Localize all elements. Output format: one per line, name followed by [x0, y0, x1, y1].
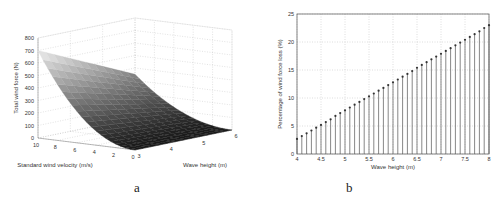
- stem-marker: [406, 73, 408, 75]
- stem-marker: [402, 76, 404, 78]
- x-tick-label: 2: [112, 152, 115, 158]
- stem-marker: [416, 67, 418, 69]
- y-tick-label: 20: [288, 39, 294, 45]
- stem-marker: [301, 135, 303, 137]
- stem-marker: [387, 84, 389, 86]
- stem-marker: [469, 36, 471, 38]
- stem-marker: [334, 115, 336, 117]
- stem-marker: [488, 24, 490, 26]
- x-tick-label: 6.5: [413, 156, 421, 162]
- stem-marker: [310, 129, 312, 131]
- z-tick-label: 300: [25, 98, 34, 104]
- x-tick-label: 6: [391, 156, 394, 162]
- stem-marker: [306, 132, 308, 134]
- stem-marker: [421, 64, 423, 66]
- y-axis-label: Wave height (m): [183, 162, 227, 168]
- y-tick-label: 4: [170, 146, 173, 152]
- x-tick-label: 8: [54, 144, 57, 150]
- stem-marker: [296, 138, 298, 140]
- stem-marker: [339, 112, 341, 114]
- y-tick-label: 10: [288, 95, 294, 101]
- grid-line-z: [135, 68, 232, 80]
- stem-marker: [411, 70, 413, 72]
- grid-line-z: [135, 43, 232, 55]
- stem-marker: [330, 118, 332, 120]
- stem-marker: [382, 87, 384, 89]
- stem-marker: [454, 44, 456, 46]
- x-tick-label: 0: [131, 154, 134, 160]
- stem-marker: [392, 81, 394, 83]
- stem-marker: [474, 33, 476, 35]
- x-tick-label: 4: [295, 156, 298, 162]
- y-tick-label: 25: [288, 11, 294, 17]
- x-tick-label: 5: [343, 156, 346, 162]
- y-axis-label: Percentage of wind force loss (%): [277, 39, 283, 129]
- z-tick-label: 600: [25, 60, 34, 66]
- stem-marker: [325, 121, 327, 123]
- x-tick-label: 4.5: [317, 156, 325, 162]
- z-tick-label: 400: [25, 85, 34, 91]
- z-tick-label: 700: [25, 48, 34, 54]
- stem-marker: [320, 124, 322, 126]
- stem-marker: [478, 30, 480, 32]
- box-top-edge: [135, 18, 232, 30]
- grid-line-z: [38, 31, 135, 51]
- x-axis-label: Standard wind velocity (m/s): [17, 162, 92, 168]
- y-tick-label: 15: [288, 67, 294, 73]
- z-tick-label: 500: [25, 73, 34, 79]
- y-tick-label: 3: [137, 153, 140, 159]
- stem-marker: [358, 101, 360, 103]
- caption-b: b: [346, 180, 353, 196]
- x-tick-label: 10: [33, 142, 39, 148]
- surface-plot-wind-force: 010020030040050060070080002468103456Stan…: [0, 0, 250, 203]
- stem-marker: [363, 98, 365, 100]
- stem-marker: [344, 109, 346, 111]
- stem-marker: [349, 106, 351, 108]
- stem-marker: [397, 78, 399, 80]
- x-tick-label: 6: [73, 147, 76, 153]
- y-tick-label: 0: [291, 151, 294, 157]
- x-axis-label: Wave height (m): [371, 164, 415, 170]
- z-tick-label: 800: [25, 35, 34, 41]
- z-tick-label: 0: [31, 135, 34, 141]
- stem-marker: [459, 41, 461, 43]
- y-tick-label: 6: [234, 133, 237, 139]
- x-tick-label: 7: [439, 156, 442, 162]
- stem-marker: [445, 50, 447, 52]
- z-tick-label: 100: [25, 123, 34, 129]
- x-tick-label: 7.5: [461, 156, 469, 162]
- stem-marker: [483, 27, 485, 29]
- z-axis-label: Total wind force (N): [13, 62, 19, 114]
- stem-marker: [373, 92, 375, 94]
- x-tick-label: 5.5: [365, 156, 373, 162]
- y-tick-label: 5: [202, 140, 205, 146]
- chart-b-panel: 44.555.566.577.580510152025Wave height (…: [250, 0, 501, 203]
- stem-marker: [435, 55, 437, 57]
- stem-marker: [440, 53, 442, 55]
- stem-marker: [450, 47, 452, 49]
- stem-marker: [315, 127, 317, 129]
- x-tick-label: 4: [93, 149, 96, 155]
- stem-marker: [426, 61, 428, 63]
- grid-line-z: [135, 56, 232, 68]
- caption-a: a: [134, 180, 140, 196]
- x-tick-label: 8: [487, 156, 490, 162]
- grid-line-z: [135, 31, 232, 43]
- stem-marker: [354, 104, 356, 106]
- stem-marker: [464, 39, 466, 41]
- stem-marker: [368, 95, 370, 97]
- z-tick-label: 200: [25, 110, 34, 116]
- stem-marker: [378, 90, 380, 92]
- box-top-edge: [38, 18, 135, 38]
- chart-a-panel: 010020030040050060070080002468103456Stan…: [0, 0, 250, 203]
- stem-plot-wind-force-loss: 44.555.566.577.580510152025Wave height (…: [250, 0, 501, 203]
- y-tick-label: 5: [291, 123, 294, 129]
- stem-marker: [430, 58, 432, 60]
